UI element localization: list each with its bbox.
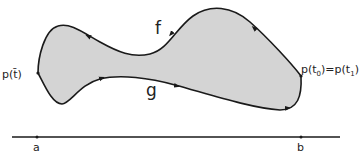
enclosed-region (38, 8, 301, 110)
label-a: a (33, 141, 40, 154)
label-g: g (146, 80, 157, 100)
label-right-mid: )=p(t (321, 63, 351, 76)
diagram-canvas: f g p(t̄) p(t0)=p(t1) a b (0, 0, 364, 155)
interval-b-dot (300, 136, 303, 139)
label-b: b (297, 141, 304, 154)
label-f: f (155, 18, 162, 38)
interval-a-dot (36, 136, 39, 139)
point-left-dot (36, 71, 39, 74)
label-right-part1: p(t (301, 63, 317, 76)
label-point-right: p(t0)=p(t1) (301, 63, 359, 78)
label-point-left: p(t̄) (2, 68, 22, 81)
label-right-close: ) (355, 63, 359, 76)
